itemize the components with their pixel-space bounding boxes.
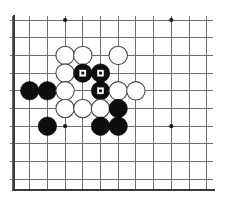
stone-white[interactable] xyxy=(109,46,127,64)
white-stone[interactable] xyxy=(109,82,127,100)
stone-white[interactable] xyxy=(56,46,74,64)
square-marker-center xyxy=(99,72,102,75)
go-board-diagram xyxy=(0,0,236,203)
square-marker-center xyxy=(99,89,102,92)
black-stone[interactable] xyxy=(38,82,56,100)
go-board-canvas[interactable] xyxy=(0,0,236,203)
square-marker-center xyxy=(81,72,84,75)
star-point xyxy=(169,124,173,128)
stone-black[interactable] xyxy=(38,117,56,135)
stone-white[interactable] xyxy=(74,46,92,64)
stone-black-marked[interactable] xyxy=(91,64,109,82)
stone-white[interactable] xyxy=(74,99,92,117)
star-point xyxy=(169,18,173,22)
stone-white[interactable] xyxy=(109,82,127,100)
white-stone[interactable] xyxy=(56,46,74,64)
white-stone[interactable] xyxy=(109,46,127,64)
stone-black-marked[interactable] xyxy=(91,82,109,100)
stone-black-marked[interactable] xyxy=(74,64,92,82)
black-stone[interactable] xyxy=(109,117,127,135)
black-stone[interactable] xyxy=(109,99,127,117)
white-stone[interactable] xyxy=(56,82,74,100)
white-stone[interactable] xyxy=(127,82,145,100)
black-stone[interactable] xyxy=(38,117,56,135)
white-stone[interactable] xyxy=(74,99,92,117)
star-point xyxy=(63,124,67,128)
stone-white[interactable] xyxy=(56,82,74,100)
stone-white[interactable] xyxy=(56,64,74,82)
white-stone[interactable] xyxy=(91,99,109,117)
black-stone[interactable] xyxy=(21,82,39,100)
white-stone[interactable] xyxy=(74,46,92,64)
star-point xyxy=(63,18,67,22)
stone-black[interactable] xyxy=(21,82,39,100)
white-stone[interactable] xyxy=(56,99,74,117)
stone-black[interactable] xyxy=(38,82,56,100)
black-stone[interactable] xyxy=(91,117,109,135)
stone-white[interactable] xyxy=(56,99,74,117)
stone-black[interactable] xyxy=(109,117,127,135)
stone-white[interactable] xyxy=(127,82,145,100)
stone-black[interactable] xyxy=(91,117,109,135)
stone-white[interactable] xyxy=(91,99,109,117)
stone-black[interactable] xyxy=(109,99,127,117)
white-stone[interactable] xyxy=(56,64,74,82)
